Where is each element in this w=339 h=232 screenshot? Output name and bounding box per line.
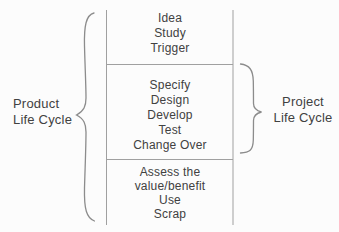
lifecycle-stage: Assess the <box>107 165 233 179</box>
section-project-phases: Specify Design Develop Test Change Over <box>107 78 233 153</box>
project-lifecycle-label: Project Life Cycle <box>272 94 334 126</box>
section-use-scrap: Assess the value/benefit Use Scrap <box>107 165 233 221</box>
project-lifecycle-brace <box>241 64 262 153</box>
lifecycle-stage: Scrap <box>107 207 233 221</box>
project-lifecycle-label-line2: Life Cycle <box>272 110 334 126</box>
lifecycle-stage: Study <box>107 26 233 41</box>
product-lifecycle-label: Product Life Cycle <box>13 96 72 128</box>
lifecycle-stage: Change Over <box>107 138 233 153</box>
product-lifecycle-label-line1: Product <box>13 96 72 112</box>
lifecycle-stage: Design <box>107 93 233 108</box>
product-lifecycle-label-line2: Life Cycle <box>13 112 72 128</box>
lifecycle-stage: Use <box>107 193 233 207</box>
lifecycle-stage: Trigger <box>107 41 233 56</box>
lifecycle-stage: Test <box>107 123 233 138</box>
section-idea-study-trigger: Idea Study Trigger <box>107 11 233 56</box>
lifecycle-stage: value/benefit <box>107 179 233 193</box>
lifecycle-stage: Idea <box>107 11 233 26</box>
lifecycle-stage: Develop <box>107 108 233 123</box>
product-lifecycle-brace <box>77 13 95 221</box>
lifecycle-stage: Specify <box>107 78 233 93</box>
project-lifecycle-label-line1: Project <box>272 94 334 110</box>
lifecycle-diagram: Idea Study Trigger Specify Design Develo… <box>0 0 339 232</box>
